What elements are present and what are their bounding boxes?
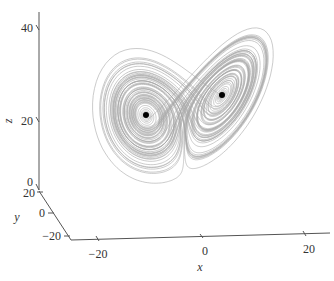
trajectory-path: [93, 28, 274, 183]
z-axis: [36, 12, 39, 190]
fixed-point-left: [143, 112, 149, 118]
trajectory: [93, 28, 274, 183]
x-tick-20: 20: [303, 242, 315, 256]
x-axis: [71, 231, 330, 241]
z-axis-label: z: [1, 118, 15, 124]
fixed-point-right: [219, 92, 225, 98]
x-axis-label: x: [196, 260, 203, 274]
y-tick-0: 0: [39, 206, 45, 220]
y-tick-20: 20: [23, 186, 35, 200]
lorenz-attractor-plot: 40 20 0 z 20 0 −20 y −20 0 20 x: [0, 0, 334, 281]
x-tick-neg20: −20: [89, 247, 108, 261]
y-tick-neg20: −20: [42, 229, 61, 243]
x-tick-0: 0: [202, 244, 208, 258]
y-axis-label: y: [13, 210, 20, 224]
z-tick-20: 20: [21, 114, 33, 128]
z-tick-40: 40: [21, 21, 33, 35]
